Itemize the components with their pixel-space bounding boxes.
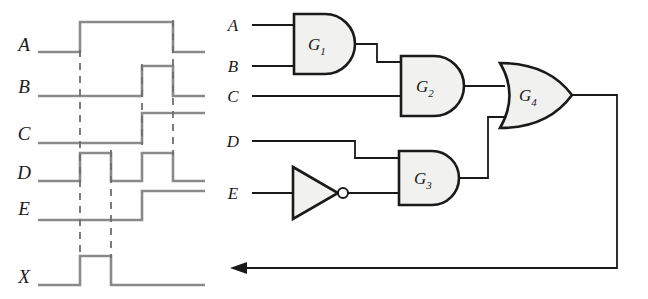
and-gate-body-G3 [399,151,459,205]
circuit-label-C: C [227,87,239,106]
not-gate-triangle [293,167,338,219]
circuit-input-labels: A B C D E [226,16,240,203]
circuit-label-E: E [227,184,239,203]
gate-G2[interactable]: G2 [401,56,464,116]
circuit-label-B: B [228,57,239,76]
feedback-arrowhead-icon [230,262,247,274]
figure-canvas: A B C D E X A B C D E G1 [0,0,648,299]
not-gate-bubble-icon [338,188,348,198]
circuit-label-A: A [227,16,239,35]
gate-G1[interactable]: G1 [294,14,355,74]
gate-inverter-E[interactable] [293,167,348,219]
gate-G3[interactable]: G3 [399,151,459,205]
gate-G4[interactable]: G4 [500,63,572,128]
wire-G1-to-G2 [355,44,401,62]
wire-input-D [252,141,399,158]
and-gate-body-G1 [294,14,355,74]
logic-circuit: A B C D E G1 G2 [0,0,648,299]
and-gate-body-G2 [401,56,464,116]
circuit-label-D: D [226,132,240,151]
